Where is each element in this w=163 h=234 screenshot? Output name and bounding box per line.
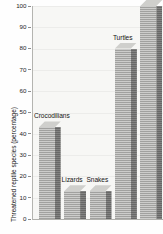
bar-side-face <box>80 191 86 219</box>
bar-chart: Threatened reptile species (percentage) … <box>0 0 163 234</box>
y-axis-tick-mark <box>28 197 31 198</box>
y-axis-tick-mark <box>28 219 31 220</box>
y-axis-tick-mark <box>28 176 31 177</box>
y-axis-tick-label: 80 <box>20 45 27 51</box>
y-axis-tick-mark <box>28 155 31 156</box>
y-axis-tick: 80 <box>20 45 31 53</box>
y-axis-tick-label: 60 <box>20 88 27 94</box>
y-axis-tick-label: 100 <box>16 3 26 9</box>
y-axis-tick-label: 10 <box>20 195 27 201</box>
bar-side-face <box>106 191 112 219</box>
bar-label: Turtles <box>113 35 133 42</box>
y-axis-tick-label: 0 <box>23 216 26 222</box>
y-axis-tick: 50 <box>20 109 31 117</box>
bar-front-face <box>90 191 106 219</box>
bar <box>115 43 137 219</box>
bar-front-face <box>140 6 156 219</box>
bar <box>90 185 112 219</box>
y-axis-tick: 70 <box>20 66 31 74</box>
x-axis-baseline <box>33 219 163 220</box>
y-axis-tick-label: 20 <box>20 173 27 179</box>
y-axis-tick-mark <box>28 112 31 113</box>
y-axis-tick-mark <box>28 6 31 7</box>
bar <box>64 185 86 219</box>
y-axis-tick-mark <box>28 48 31 49</box>
bar-front-face <box>115 49 131 219</box>
bar-front-face <box>64 191 80 219</box>
y-axis-tick: 100 <box>16 2 31 10</box>
y-axis-tick: 10 <box>20 194 31 202</box>
bar-side-face <box>131 49 137 219</box>
bar <box>39 121 61 219</box>
y-axis-tick-label: 40 <box>20 131 27 137</box>
y-axis-tick-mark <box>28 91 31 92</box>
y-axis-label-container: Threatened reptile species (percentage) <box>0 0 14 234</box>
y-axis-tick-label: 50 <box>20 109 27 115</box>
plot-area: CrocodiliansLizardsSnakesTurtlesTuataras <box>32 6 163 220</box>
y-axis-tick: 60 <box>20 87 31 95</box>
y-axis-tick: 20 <box>20 172 31 180</box>
y-axis-tick-label: 30 <box>20 152 27 158</box>
y-axis-tick-label: 70 <box>20 67 27 73</box>
y-axis-tick-mark <box>28 69 31 70</box>
bar-front-face <box>39 127 55 219</box>
bar-label: Crocodilians <box>34 113 70 120</box>
y-axis-tick: 90 <box>20 23 31 31</box>
y-axis-tick-mark <box>28 133 31 134</box>
bar <box>140 0 162 219</box>
y-axis-tick: 0 <box>23 215 31 223</box>
y-axis-tick-mark <box>28 27 31 28</box>
y-axis-tick: 40 <box>20 130 31 138</box>
y-axis-ticks: 0102030405060708090100 <box>14 6 31 220</box>
y-axis-tick: 30 <box>20 151 31 159</box>
bar-side-face <box>156 6 162 219</box>
bar-side-face <box>55 127 61 219</box>
bar-label: Snakes <box>87 177 109 184</box>
y-axis-tick-label: 90 <box>20 24 27 30</box>
bar-label: Lizards <box>62 177 83 184</box>
